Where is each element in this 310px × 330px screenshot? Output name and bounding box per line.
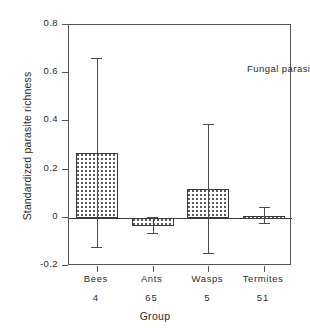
error-bar-cap-upper [147,217,158,218]
y-tick-label: -0.2 [18,258,58,269]
x-category-label-termites: Termites [243,273,284,284]
error-bar-cap-lower [147,233,158,234]
error-bar-line-bees [97,58,98,247]
error-bar-cap-lower [91,247,102,248]
sample-size-ants: 65 [145,292,158,303]
sample-size-wasps: 5 [204,292,210,303]
x-category-label-ants: Ants [141,273,162,284]
y-tick-label: 0.8 [18,17,58,28]
y-tick-label: 0.6 [18,65,58,76]
error-bar-cap-lower [203,253,214,254]
y-tick-mark [62,265,68,266]
chart-annotation: Fungal parasites [247,63,310,74]
x-category-label-bees: Bees [84,273,108,284]
x-tick-mark [97,266,98,272]
x-tick-mark [264,266,265,272]
x-axis-title: Group [0,310,310,322]
sample-size-bees: 4 [93,292,99,303]
plot-area: Fungal parasites [68,24,291,265]
error-bar-cap-upper [259,207,270,208]
sample-size-termites: 51 [257,292,270,303]
error-bar-cap-lower [259,223,270,224]
y-tick-label: 0 [18,210,58,221]
y-tick-label: 0.4 [18,113,58,124]
chart-figure: Standardized parasite richness 0.80.60.4… [0,0,310,330]
x-tick-mark [208,266,209,272]
error-bar-line-ants [153,217,154,234]
y-axis-title: Standardized parasite richness [21,26,33,266]
error-bar-cap-upper [203,124,214,125]
x-tick-mark [153,266,154,272]
error-bar-cap-upper [91,58,102,59]
error-bar-line-wasps [208,124,209,253]
error-bar-line-termites [264,207,265,223]
y-tick-label: 0.2 [18,162,58,173]
x-category-label-wasps: Wasps [192,273,224,284]
